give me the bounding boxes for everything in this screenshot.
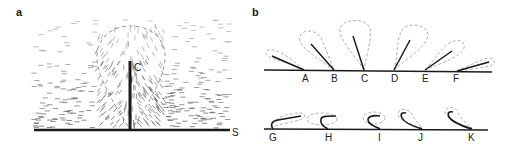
bottom-row-surface — [264, 129, 488, 130]
rod-i — [363, 112, 385, 129]
label-k: K — [468, 133, 475, 143]
label-b: B — [331, 74, 338, 84]
rod-a — [266, 50, 304, 70]
rod-e — [425, 41, 464, 70]
rod-b — [300, 31, 334, 70]
panel-b-diagram — [0, 0, 505, 153]
rod-h — [307, 113, 337, 129]
label-f: F — [453, 74, 459, 84]
label-a: A — [302, 74, 309, 84]
label-i: I — [378, 133, 381, 143]
rod-k — [445, 108, 472, 130]
label-d: D — [391, 74, 398, 84]
label-c: C — [361, 74, 368, 84]
rod-j — [398, 110, 422, 130]
rod-f — [457, 58, 494, 71]
label-j: J — [418, 133, 423, 143]
rod-c-b — [340, 21, 371, 71]
rod-g — [271, 113, 305, 129]
label-e: E — [422, 74, 429, 84]
label-g: G — [269, 133, 277, 143]
label-h: H — [325, 133, 332, 143]
rod-d — [394, 25, 428, 70]
